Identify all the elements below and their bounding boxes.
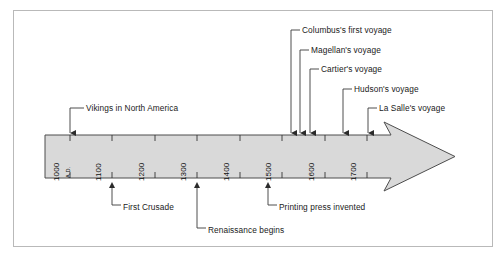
leader-arrowhead-below — [194, 182, 200, 188]
leader-line-above-5 — [368, 108, 377, 133]
event-label-above-3: Cartier's voyage — [321, 65, 382, 74]
year-label-1000: 1000 — [52, 163, 61, 181]
year-label-1100: 1100 — [94, 163, 103, 181]
event-label-above-2: Magellan's voyage — [311, 46, 381, 55]
event-label-above-1: Columbus's first voyage — [302, 26, 392, 35]
event-label-below-2: Printing press invented — [279, 203, 365, 212]
year-label-1200: 1200 — [137, 163, 146, 181]
event-label-below-1: Renaissance begins — [208, 226, 284, 235]
leader-line-above-4 — [343, 89, 352, 133]
era-label-ad: A.D. — [65, 167, 71, 178]
year-label-1700: 1700 — [349, 163, 358, 181]
year-label-1300: 1300 — [179, 163, 188, 181]
leader-line-above-0 — [70, 108, 84, 133]
leader-line-above-1 — [291, 30, 300, 133]
timeline-figure: 1000A.D.1100120013001400150016001700 Vik… — [0, 0, 502, 263]
timeline-arrow-shape — [45, 122, 455, 191]
event-label-above-5: La Salle's voyage — [379, 104, 445, 113]
leader-arrowhead-below — [109, 182, 115, 188]
event-label-below-0: First Crusade — [123, 203, 174, 212]
year-label-1500: 1500 — [264, 163, 273, 181]
event-label-above-0: Vikings in North America — [86, 104, 178, 113]
event-label-above-4: Hudson's voyage — [354, 85, 419, 94]
year-label-1400: 1400 — [222, 163, 231, 181]
leader-line-above-2 — [300, 50, 309, 133]
year-label-1600: 1600 — [307, 163, 316, 181]
leader-line-above-3 — [310, 69, 319, 133]
timeline-canvas — [0, 0, 502, 263]
leader-arrowhead-below — [265, 182, 271, 188]
leader-line-below-1 — [197, 184, 206, 228]
